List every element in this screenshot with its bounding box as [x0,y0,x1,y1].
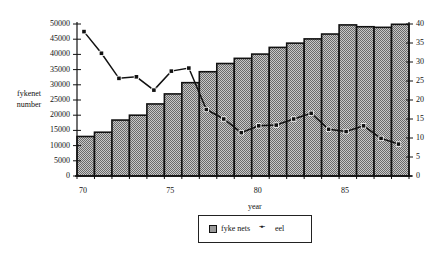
eel-marker-icon [152,88,156,92]
bar [147,104,164,176]
tick-label: 25 [416,76,424,85]
tick-label: 35 [416,38,424,47]
tick-label: 40 [416,19,424,28]
eel-marker-icon [187,66,191,70]
bar [339,25,356,176]
bar [252,54,269,176]
tick-label: 5 [416,152,420,161]
eel-marker-icon [117,77,121,81]
eel-marker-icon [170,69,174,73]
tick-label: 0 [416,171,420,180]
legend-fyke-nets-label: fyke nets [221,224,250,233]
y-axis-label: fykenet number [9,88,49,110]
eel-marker-icon [309,112,313,116]
legend: fyke nets -▪- eel [198,215,312,243]
tick-label: 75 [166,186,174,195]
tick-label: 15000 [50,125,70,134]
tick-label: 0 [66,171,70,180]
bar [77,136,94,176]
eel-marker-icon [222,117,226,121]
bar [182,83,199,176]
bar [304,39,321,176]
bar [94,132,111,176]
bar [374,27,391,176]
tick-label: 25000 [50,95,70,104]
bar [112,120,129,176]
eel-marker-icon [344,130,348,134]
y-axis-label-line2: number [9,99,49,110]
bar [129,115,146,176]
x-axis-label: year [248,202,262,211]
eel-marker-icon [379,137,383,141]
tick-label: 20 [416,95,424,104]
tick-label: 5000 [54,156,70,165]
tick-label: 85 [341,186,349,195]
fyke-nets-swatch-icon [209,225,217,233]
tick-label: 70 [79,186,87,195]
fyke-nets-bars [77,24,409,176]
bar [164,94,181,176]
eel-marker-icon [239,131,243,135]
tick-label: 45000 [50,34,70,43]
eel-marker-icon [100,51,104,55]
tick-label: 50000 [50,19,70,28]
tick-label: 10000 [50,141,70,150]
eel-marker-icon [135,75,139,79]
eel-marker-icon: -▪- [259,222,264,231]
tick-label: 10 [416,133,424,142]
bar [234,58,251,176]
tick-label: 20000 [50,110,70,119]
tick-label: 30000 [50,80,70,89]
bar [199,72,216,176]
tick-label: 15 [416,114,424,123]
eel-marker-icon [82,30,86,34]
eel-marker-icon [362,124,366,128]
tick-label: 40000 [50,49,70,58]
bar [322,34,339,176]
tick-label: 30 [416,57,424,66]
bar [269,47,286,176]
tick-label: 80 [254,186,262,195]
eel-marker-icon [257,124,261,128]
tick-label: 35000 [50,65,70,74]
bar [357,27,374,176]
legend-eel-label: eel [275,224,284,233]
y-axis-label-line1: fykenet [9,88,49,99]
eel-marker-icon [397,142,401,146]
eel-marker-icon [327,127,331,131]
eel-marker-icon [205,108,209,112]
eel-marker-icon [274,123,278,127]
eel-marker-icon [292,117,296,121]
bar [287,43,304,176]
